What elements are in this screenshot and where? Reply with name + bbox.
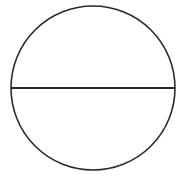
circle-diagram — [0, 0, 185, 180]
